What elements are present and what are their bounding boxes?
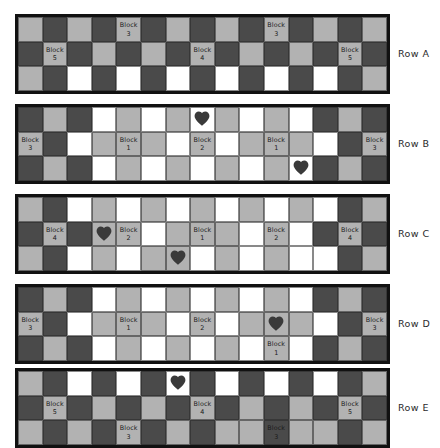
- cell[interactable]: [362, 156, 387, 181]
- cell[interactable]: [92, 156, 117, 181]
- cell[interactable]: [289, 132, 314, 157]
- cell[interactable]: [313, 17, 338, 42]
- cell[interactable]: Block1: [264, 132, 289, 157]
- cell[interactable]: Block3: [264, 420, 289, 445]
- cell[interactable]: Block4: [338, 222, 363, 247]
- cell[interactable]: [362, 107, 387, 132]
- cell[interactable]: [239, 66, 264, 91]
- cell[interactable]: [43, 156, 68, 181]
- cell[interactable]: [362, 420, 387, 445]
- cell[interactable]: Block3: [362, 132, 387, 157]
- cell[interactable]: [239, 312, 264, 337]
- cell[interactable]: [362, 197, 387, 222]
- cell[interactable]: [43, 336, 68, 361]
- cell[interactable]: Block2: [190, 312, 215, 337]
- cell[interactable]: [313, 156, 338, 181]
- cell[interactable]: [362, 17, 387, 42]
- cell[interactable]: [141, 287, 166, 312]
- cell[interactable]: [43, 107, 68, 132]
- cell[interactable]: [92, 132, 117, 157]
- cell[interactable]: [289, 17, 314, 42]
- cell[interactable]: [116, 371, 141, 396]
- cell[interactable]: [215, 336, 240, 361]
- cell[interactable]: [338, 246, 363, 271]
- cell[interactable]: [190, 287, 215, 312]
- cell[interactable]: [92, 420, 117, 445]
- cell[interactable]: [313, 336, 338, 361]
- cell[interactable]: [67, 132, 92, 157]
- cell[interactable]: [141, 17, 166, 42]
- cell[interactable]: [313, 132, 338, 157]
- cell[interactable]: Block5: [43, 42, 68, 67]
- cell[interactable]: [313, 197, 338, 222]
- cell[interactable]: [313, 222, 338, 247]
- cell[interactable]: [92, 396, 117, 421]
- cell[interactable]: [166, 17, 191, 42]
- cell[interactable]: [215, 197, 240, 222]
- cell[interactable]: [313, 107, 338, 132]
- cell[interactable]: Block1: [116, 312, 141, 337]
- cell[interactable]: [239, 107, 264, 132]
- cell[interactable]: [289, 222, 314, 247]
- cell[interactable]: [289, 396, 314, 421]
- cell[interactable]: [166, 371, 191, 396]
- cell[interactable]: [190, 107, 215, 132]
- cell[interactable]: [239, 371, 264, 396]
- cell[interactable]: [43, 246, 68, 271]
- cell[interactable]: [289, 312, 314, 337]
- cell[interactable]: [313, 312, 338, 337]
- cell[interactable]: [166, 336, 191, 361]
- cell[interactable]: [215, 420, 240, 445]
- cell[interactable]: [289, 66, 314, 91]
- cell[interactable]: [116, 336, 141, 361]
- cell[interactable]: [338, 312, 363, 337]
- cell[interactable]: [215, 287, 240, 312]
- cell[interactable]: [239, 420, 264, 445]
- cell[interactable]: [141, 420, 166, 445]
- cell[interactable]: [141, 222, 166, 247]
- cell[interactable]: [215, 371, 240, 396]
- cell[interactable]: [18, 17, 43, 42]
- cell[interactable]: [190, 246, 215, 271]
- cell[interactable]: [362, 66, 387, 91]
- cell[interactable]: [18, 371, 43, 396]
- cell[interactable]: [141, 336, 166, 361]
- cell[interactable]: [289, 246, 314, 271]
- cell[interactable]: [18, 396, 43, 421]
- cell[interactable]: [264, 66, 289, 91]
- cell[interactable]: [239, 132, 264, 157]
- cell[interactable]: [166, 42, 191, 67]
- cell[interactable]: [190, 420, 215, 445]
- cell[interactable]: [18, 222, 43, 247]
- cell[interactable]: [116, 197, 141, 222]
- cell[interactable]: [18, 156, 43, 181]
- cell[interactable]: [239, 17, 264, 42]
- cell[interactable]: [43, 17, 68, 42]
- cell[interactable]: [338, 420, 363, 445]
- cell[interactable]: [18, 66, 43, 91]
- cell[interactable]: [313, 42, 338, 67]
- cell[interactable]: [264, 246, 289, 271]
- cell[interactable]: Block1: [190, 222, 215, 247]
- cell[interactable]: [166, 396, 191, 421]
- cell[interactable]: [67, 312, 92, 337]
- cell[interactable]: [67, 42, 92, 67]
- cell[interactable]: Block3: [264, 17, 289, 42]
- cell[interactable]: [92, 371, 117, 396]
- cell[interactable]: [43, 371, 68, 396]
- cell[interactable]: [190, 156, 215, 181]
- cell[interactable]: [215, 132, 240, 157]
- cell[interactable]: [362, 396, 387, 421]
- cell[interactable]: [141, 246, 166, 271]
- cell[interactable]: [239, 396, 264, 421]
- cell[interactable]: [92, 66, 117, 91]
- cell[interactable]: [141, 371, 166, 396]
- cell[interactable]: [67, 420, 92, 445]
- cell[interactable]: [141, 197, 166, 222]
- cell[interactable]: [166, 287, 191, 312]
- cell[interactable]: [239, 222, 264, 247]
- cell[interactable]: [264, 312, 289, 337]
- cell[interactable]: [313, 287, 338, 312]
- cell[interactable]: [362, 371, 387, 396]
- cell[interactable]: [338, 197, 363, 222]
